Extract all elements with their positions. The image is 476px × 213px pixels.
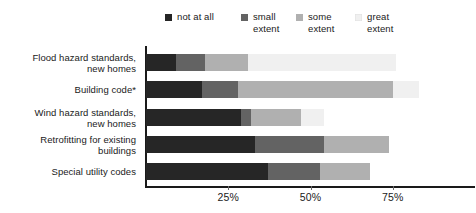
bar-segment [146,136,255,153]
bar-segment [268,163,321,180]
bar-segment [146,109,241,126]
bar-segment [176,54,206,71]
bar-row-label: Special utility codes [0,166,136,177]
legend-item-small-extent: small extent [241,11,279,34]
stacked-bar [146,163,370,180]
legend-swatch-some-extent [296,14,303,21]
bar-row: Building code* [0,77,476,104]
chart-legend: not at all small extent some extent grea… [0,11,476,41]
bar-row: Special utility codes [0,159,476,186]
x-axis-tick-label: 50% [300,191,322,203]
legend-label-not-at-all: not at all [177,11,214,23]
legend-item-some-extent: some extent [296,11,334,34]
x-axis-tick [393,186,394,190]
legend-label-small-extent: small extent [253,11,279,34]
bar-segment [301,109,324,126]
bar-row-label: Flood hazard standards, new homes [0,52,136,74]
legend-swatch-small-extent [241,14,248,21]
legend-swatch-not-at-all [165,14,172,21]
bar-row: Flood hazard standards, new homes [0,50,476,77]
stacked-bar [146,54,396,71]
bar-segment [251,109,300,126]
bar-segment [393,81,419,98]
x-axis-tick-label: 75% [382,191,404,203]
legend-label-great-extent: great extent [367,11,393,34]
bar-segment [205,54,248,71]
bar-row: Wind hazard standards, new homes [0,105,476,132]
bar-row-label: Building code* [0,84,136,95]
bar-segment [248,54,396,71]
bar-segment [146,163,268,180]
bar-segment [241,109,251,126]
bar-segment [202,81,238,98]
bar-segment [255,136,324,153]
bar-row: Retrofitting for existing buildings [0,132,476,159]
bar-segment [320,163,369,180]
x-axis-tick-label: 25% [217,191,239,203]
bar-segment [146,54,176,71]
stacked-bar [146,81,419,98]
chart-plot-area: Flood hazard standards, new homesBuildin… [0,45,476,195]
legend-item-great-extent: great extent [355,11,393,34]
x-axis-tick [228,186,229,190]
bar-segment [238,81,393,98]
bar-segment [146,81,202,98]
legend-label-some-extent: some extent [308,11,334,34]
bar-row-label: Retrofitting for existing buildings [0,134,136,156]
stacked-bar [146,109,324,126]
x-axis-tick [311,186,312,190]
legend-item-not-at-all: not at all [165,11,214,23]
legend-swatch-great-extent [355,14,362,21]
bar-row-label: Wind hazard standards, new homes [0,107,136,129]
bar-segment [324,136,390,153]
chart-caption [0,205,476,213]
stacked-bar [146,136,389,153]
